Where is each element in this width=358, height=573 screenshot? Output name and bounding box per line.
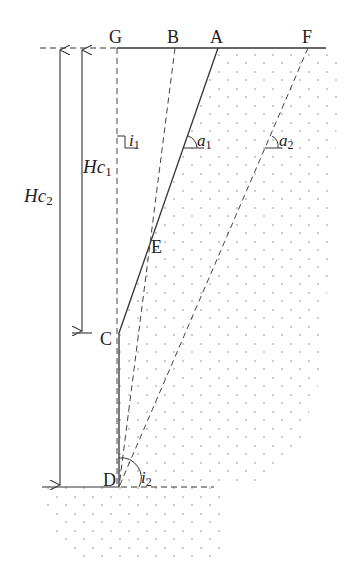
slope-diagram: G B A F E C D Hc2 Hc1 i1 a1 a2 i2 — [0, 0, 358, 573]
label-B: B — [167, 27, 179, 47]
soil-body — [119, 48, 338, 487]
label-A: A — [210, 27, 223, 47]
label-F: F — [302, 27, 312, 47]
label-hc2: Hc2 — [23, 185, 53, 208]
label-i1: i1 — [129, 131, 140, 152]
label-C: C — [100, 329, 112, 349]
label-G: G — [109, 27, 122, 47]
label-E: E — [151, 237, 162, 257]
label-D: D — [103, 470, 116, 490]
label-hc1: Hc1 — [82, 156, 112, 179]
foundation-soil — [42, 487, 222, 560]
